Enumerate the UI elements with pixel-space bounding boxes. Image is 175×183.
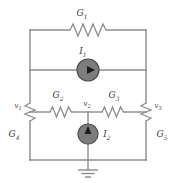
label-g5-sub: 5 (164, 134, 168, 141)
label-g4-base: G (8, 129, 15, 139)
label-node-v3: v3 (154, 102, 161, 111)
label-g2-base: G (52, 90, 59, 100)
label-g4: G4 (8, 129, 19, 141)
label-node-v3-sub: 3 (158, 105, 161, 111)
label-g1: G1 (76, 8, 87, 20)
label-i1: I1 (78, 46, 86, 58)
resistor-g1-zigzag (70, 24, 106, 36)
label-g3: G3 (108, 90, 119, 102)
label-g4-sub: 4 (15, 134, 20, 141)
label-i1-sub: 1 (83, 51, 87, 58)
label-i2: I2 (102, 129, 111, 141)
resistor-g1 (70, 24, 106, 36)
label-g1-sub: 1 (84, 13, 88, 20)
ground-symbol (78, 170, 98, 177)
resistor-g3-zigzag (102, 107, 126, 117)
resistor-g2 (50, 107, 74, 117)
resistor-g3 (102, 107, 126, 117)
label-g1-base: G (76, 8, 83, 18)
label-node-v1: v1 (14, 102, 21, 111)
label-node-v2-sub: 2 (86, 103, 90, 109)
label-g5-base: G (156, 129, 163, 139)
label-node-v1-sub: 1 (18, 105, 21, 111)
label-g2-sub: 2 (59, 95, 64, 102)
label-g5: G5 (156, 129, 167, 141)
label-g3-base: G (108, 90, 115, 100)
label-node-v2: v2 (83, 100, 90, 109)
resistor-g2-zigzag (50, 107, 74, 117)
label-g3-sub: 3 (116, 95, 120, 102)
current-source-i1 (77, 59, 99, 81)
label-i2-sub: 2 (106, 134, 111, 141)
circuit-diagram: G1 I1 G2 G3 G4 G5 I2 v1 v2 v3 (0, 0, 175, 183)
label-g2: G2 (52, 90, 63, 102)
current-source-i2 (78, 124, 98, 144)
schematic-canvas: G1 I1 G2 G3 G4 G5 I2 v1 v2 v3 (0, 0, 175, 183)
